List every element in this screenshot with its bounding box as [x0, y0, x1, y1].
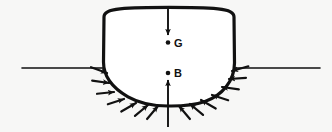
- pressure-arrow: [229, 78, 246, 79]
- centre-of-buoyancy-label: B: [174, 67, 182, 79]
- pressure-arrow: [135, 105, 148, 116]
- pressure-arrow: [92, 81, 109, 83]
- centre-of-buoyancy-point: [166, 71, 171, 76]
- pressure-arrow: [108, 99, 124, 104]
- pressure-arrow: [147, 106, 158, 119]
- centre-of-gravity-point: [166, 40, 171, 45]
- pressure-arrow: [190, 104, 203, 115]
- pressure-arrow: [179, 106, 190, 119]
- pressure-arrow: [121, 103, 136, 112]
- hull-stability-diagram: G B: [0, 0, 332, 132]
- hull-outline: [104, 7, 235, 106]
- centre-of-gravity-label: G: [174, 37, 183, 49]
- hull-diagram-canvas: G B: [0, 0, 332, 132]
- pressure-arrow: [97, 92, 114, 94]
